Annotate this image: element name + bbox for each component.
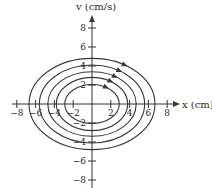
x-tick-label: 4 — [127, 108, 133, 118]
x-tick-label: 2 — [108, 108, 114, 118]
direction-arrow-icon — [121, 62, 129, 69]
x-axis-label: x (cm) — [182, 99, 212, 110]
y-tick-label: 4 — [80, 61, 86, 71]
y-axis-label: v (cm/s) — [75, 1, 116, 12]
direction-arrow-icon — [111, 73, 119, 80]
x-tick-label: 6 — [146, 108, 152, 118]
x-tick-label: −6 — [29, 108, 43, 118]
x-tick-label: −4 — [48, 108, 62, 118]
x-tick-label: 8 — [164, 108, 170, 118]
y-tick-label: −4 — [73, 137, 87, 147]
x-axis-ticks: −8−6−4−22468 — [10, 100, 170, 118]
phase-portrait-svg: −8−6−4−22468 8642−2−4−6−8 x (cm) v (cm/s… — [0, 0, 212, 188]
y-tick-label: −2 — [73, 118, 86, 128]
direction-arrow-icon — [107, 78, 115, 85]
y-tick-label: 6 — [80, 42, 86, 52]
y-tick-label: −6 — [73, 156, 87, 166]
x-tick-label: −8 — [10, 108, 24, 118]
direction-arrow-icon — [116, 67, 124, 74]
x-tick-label: −2 — [67, 108, 80, 118]
x-axis-arrow-icon — [173, 101, 180, 107]
direction-arrow-icon — [102, 84, 110, 91]
phase-portrait-figure: −8−6−4−22468 8642−2−4−6−8 x (cm) v (cm/s… — [0, 0, 212, 188]
y-tick-label: −8 — [73, 175, 87, 185]
y-tick-label: 8 — [80, 23, 86, 33]
y-tick-label: 2 — [80, 80, 86, 90]
y-axis-arrow-icon — [89, 15, 95, 22]
